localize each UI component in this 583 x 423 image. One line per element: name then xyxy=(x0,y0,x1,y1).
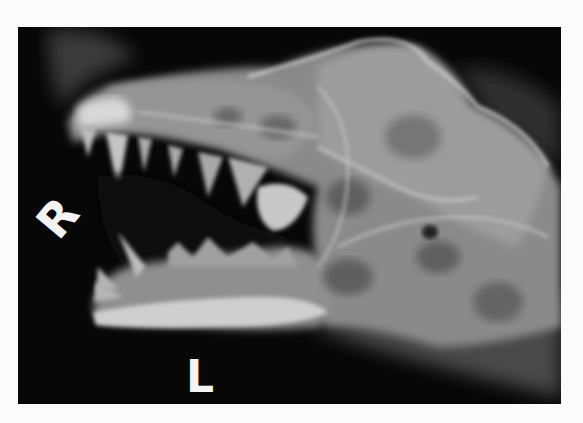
skull-radiograph-graphic xyxy=(18,27,561,404)
orientation-marker-left: L xyxy=(186,355,214,399)
radiograph-image: R L xyxy=(18,27,561,404)
